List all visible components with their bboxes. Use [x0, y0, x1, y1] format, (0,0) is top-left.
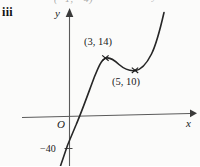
y-axis-label: y — [55, 8, 60, 19]
graph-canvas — [0, 0, 200, 166]
origin-label: O — [57, 119, 65, 130]
point-label-minimum: (5, 10) — [112, 76, 140, 87]
y-tick-label--40: −40 — [40, 144, 56, 154]
figure-container: (−1, −4) y iii y x O −40 (3, 14) (5, — [0, 0, 200, 166]
x-axis — [22, 110, 197, 118]
x-axis-label: x — [186, 118, 191, 129]
cubic-curve — [61, 13, 165, 167]
point-label-maximum: (3, 14) — [84, 36, 112, 47]
